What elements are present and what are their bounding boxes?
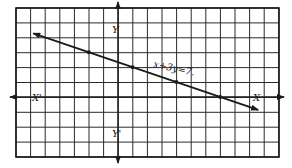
data-point [218,95,222,99]
axis-labels: Y Y' X' X x+3y=7. [31,24,261,139]
grid [16,8,279,157]
x-axis-neg-label: X' [31,92,42,103]
y-axis-label: Y [112,24,120,35]
data-point [131,65,135,69]
line-series [33,33,258,110]
graph-figure: Y Y' X' X x+3y=7. [0,0,292,168]
equation-line-right [146,72,258,110]
data-point [174,80,178,84]
equation-label: x+3y=7. [153,58,196,77]
y-axis-neg-label: Y' [112,128,121,139]
x-axis-label: X [252,92,261,103]
data-point [87,50,91,54]
